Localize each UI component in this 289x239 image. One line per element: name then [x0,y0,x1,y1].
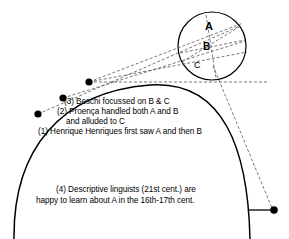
observer-marker-4[interactable] [270,206,278,214]
annotation-line-3: (3) Beschi focussed on B & C [64,97,170,107]
observer-marker-1[interactable] [34,110,41,117]
observer-marker-3[interactable] [85,78,92,85]
annotation-line-4a: (4) Descriptive linguists (21st cent.) a… [56,185,196,195]
sightline-3 [89,23,243,82]
annotation-line-1: (1) Henrique Henriques first saw A and t… [38,127,202,137]
annotation-line-2-cont: and alluded to C [66,117,125,127]
annotation-line-2: (2) Proença handled both A and B [57,107,178,117]
annotation-line-4b: happy to learn about A in the 16th-17th … [36,196,194,206]
point-label-b: B [203,41,210,52]
sightline-5 [213,66,272,208]
point-label-c: C [194,60,201,70]
point-label-a: A [205,20,213,32]
circle-chord-1 [182,27,239,62]
diagram-canvas: A B C (3) Beschi focussed on B & C (2) P… [0,0,289,239]
